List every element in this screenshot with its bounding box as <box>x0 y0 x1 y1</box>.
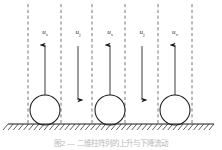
hatch-tick <box>194 124 199 130</box>
label-subscript: j <box>79 32 80 37</box>
figure-container: usujusujuv 图2 — 二维柱阵列的上升与下降流动 <box>0 0 222 150</box>
label-u-j-2: uj <box>140 28 145 36</box>
hatch-tick <box>49 124 54 130</box>
label-subscript: s <box>111 32 113 37</box>
label-u-s-1: us <box>42 28 47 36</box>
hatch-tick <box>101 124 106 130</box>
hatch-tick <box>60 124 65 130</box>
cylinder-2 <box>95 95 125 125</box>
diagram-canvas <box>0 0 222 150</box>
label-u-s-2: us <box>107 28 112 36</box>
hatch-tick <box>3 124 8 130</box>
hatch-tick <box>168 124 173 130</box>
hatch-tick <box>163 124 168 130</box>
hatch-tick <box>80 124 85 130</box>
cylinder-circles <box>30 95 190 125</box>
label-subscript: v <box>176 32 178 37</box>
label-symbol: u <box>140 28 144 36</box>
hatch-tick <box>96 124 101 130</box>
hatch-tick <box>147 124 152 130</box>
hatch-tick <box>199 124 204 130</box>
hatch-tick <box>18 124 23 130</box>
label-symbol: u <box>107 28 111 36</box>
label-u-s-3: uv <box>172 28 178 36</box>
label-symbol: u <box>76 28 80 36</box>
hatch-tick <box>127 124 132 130</box>
hatch-tick <box>91 124 96 130</box>
label-symbol: u <box>42 28 46 36</box>
hatch-tick <box>209 124 214 130</box>
hatch-tick <box>121 124 126 130</box>
hatch-tick <box>183 124 188 130</box>
hatch-tick <box>152 124 157 130</box>
label-subscript: s <box>46 32 48 37</box>
hatch-tick <box>85 124 90 130</box>
hatch-tick <box>204 124 209 130</box>
hatch-tick <box>55 124 60 130</box>
label-u-j-1: uj <box>76 28 81 36</box>
hatch-tick <box>70 124 75 130</box>
hatch-tick <box>75 124 80 130</box>
hatch-tick <box>142 124 147 130</box>
figure-caption: 图2 — 二维柱阵列的上升与下降流动 <box>0 138 222 149</box>
hatch-tick <box>8 124 13 130</box>
hatch-tick <box>29 124 34 130</box>
label-symbol: u <box>172 28 176 36</box>
hatch-tick <box>137 124 142 130</box>
label-subscript: j <box>143 32 144 37</box>
cylinder-1 <box>30 95 60 125</box>
hatch-tick <box>158 124 163 130</box>
hatch-tick <box>132 124 137 130</box>
hatch-tick <box>24 124 29 130</box>
hatch-tick <box>34 124 39 130</box>
hatch-tick <box>188 124 193 130</box>
cylinder-3 <box>160 95 190 125</box>
hatch-tick <box>65 124 70 130</box>
hatch-tick <box>13 124 18 130</box>
hatch-tick <box>116 124 121 130</box>
